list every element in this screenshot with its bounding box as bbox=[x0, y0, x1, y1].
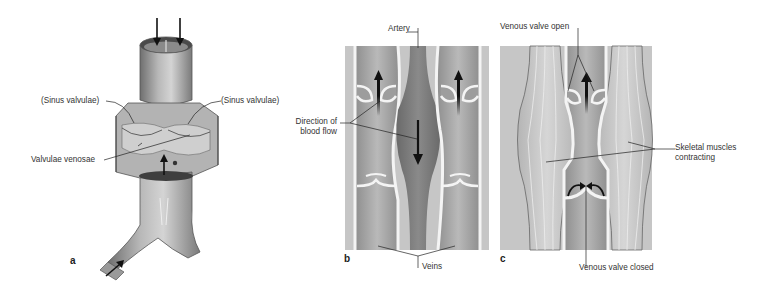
label-direction-of-blood-flow: Direction of blood flow bbox=[277, 117, 337, 137]
label-venous-valve-open: Venous valve open bbox=[500, 22, 569, 32]
label-veins: Veins bbox=[422, 262, 442, 272]
label-muscles-line2: contracting bbox=[675, 153, 736, 163]
label-artery: Artery bbox=[388, 24, 410, 34]
label-sinus-valvulae-right: (Sinus valvulae) bbox=[221, 96, 279, 106]
label-direction-line1: Direction of bbox=[277, 117, 337, 127]
label-sinus-valvulae-left: (Sinus valvulae) bbox=[41, 96, 99, 106]
panel-a-illustration bbox=[100, 18, 218, 280]
panel-b-illustration bbox=[345, 46, 489, 250]
label-skeletal-muscles-contracting: Skeletal muscles contracting bbox=[675, 143, 736, 163]
label-valvulae-venosae: Valvulae venosae bbox=[31, 155, 95, 165]
panel-letter-a: a bbox=[70, 255, 76, 266]
panel-c-illustration bbox=[500, 46, 653, 250]
label-muscles-line1: Skeletal muscles bbox=[675, 143, 736, 153]
panel-letter-b: b bbox=[344, 253, 350, 264]
panel-letter-c: c bbox=[500, 253, 506, 264]
label-venous-valve-closed: Venous valve closed bbox=[579, 263, 654, 273]
venous-valve-figure bbox=[0, 0, 762, 284]
label-direction-line2: blood flow bbox=[277, 127, 337, 137]
